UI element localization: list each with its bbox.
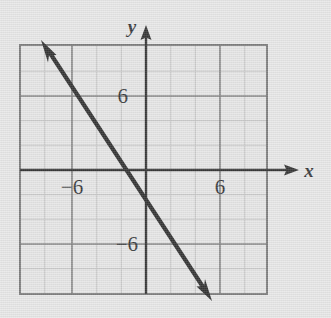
y-tick-label-6: 6 [118, 84, 129, 108]
x-axis-label: x [303, 160, 314, 181]
y-tick-label-negative-6: −6 [116, 232, 138, 256]
y-axis-label: y [126, 16, 137, 37]
x-tick-label-6: 6 [215, 175, 226, 199]
graph-figure: x y −6 6 6 −6 [0, 0, 331, 318]
coordinate-plane-svg: x y −6 6 6 −6 [0, 0, 331, 318]
x-tick-label-negative-6: −6 [61, 175, 83, 199]
